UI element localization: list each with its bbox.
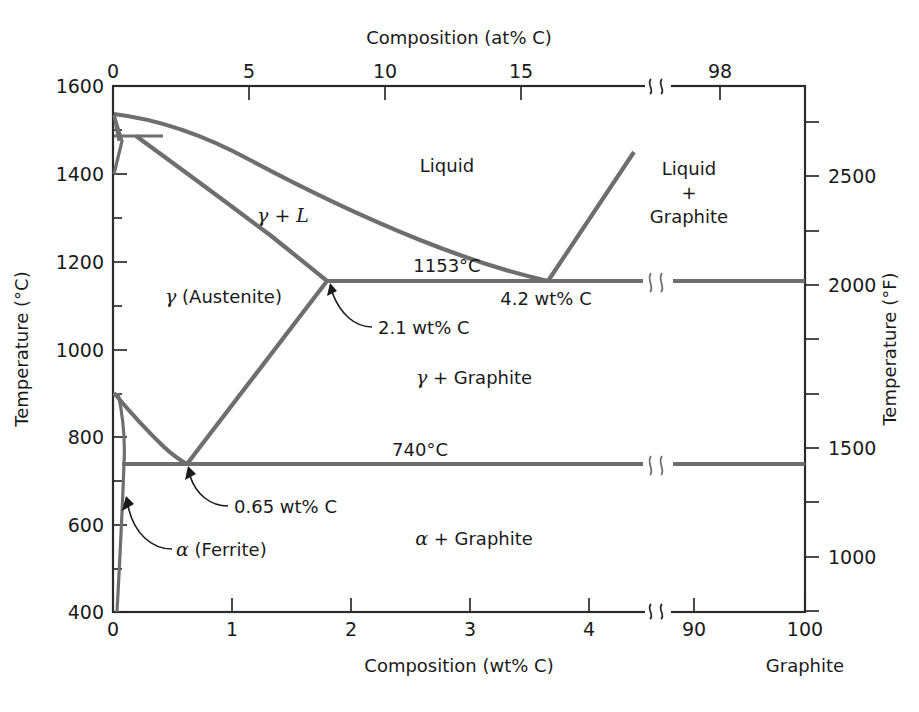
left-tick-label-1000: 1000	[56, 339, 104, 361]
liquid-graphite-line3: Graphite	[650, 206, 728, 227]
phase-diagram-figure: 0 5 10 15 98 Composition (at% C) 0 1 2	[0, 0, 919, 712]
left-axis-title: Temperature (°C)	[11, 271, 32, 427]
top-axis-tick-labels: 0 5 10 15 98	[107, 60, 732, 82]
annotation-eutectoid-temp: 740°C	[392, 439, 448, 460]
top-axis-ticks	[113, 86, 720, 100]
annotation-eutectic-comp: 4.2 wt% C	[500, 288, 592, 309]
bottom-axis-ticks	[113, 598, 805, 612]
left-tick-label-800: 800	[68, 426, 104, 448]
left-tick-label-1200: 1200	[56, 251, 104, 273]
bottom-tick-label-6: 100	[787, 618, 823, 640]
svg-text:γ + L: γ + L	[257, 204, 309, 226]
top-tick-label-1: 5	[243, 60, 255, 82]
region-label-gamma-plus-l-rest: + L	[268, 204, 309, 226]
top-axis-break-icon	[645, 79, 671, 94]
left-tick-label-1600: 1600	[56, 75, 104, 97]
region-label-gamma-austenite: γ (Austenite)	[165, 285, 282, 307]
acm-solvus-line	[187, 281, 327, 464]
gamma-glyph-3: γ	[416, 366, 428, 388]
annotation-0p65-leader	[185, 466, 228, 506]
top-axis-title: Composition (at% C)	[366, 27, 552, 48]
annotation-alpha-ferrite: α (Ferrite)	[176, 538, 267, 560]
graphite-corner-label: Graphite	[766, 655, 844, 676]
svg-text:γ (Austenite): γ (Austenite)	[165, 285, 282, 307]
left-tick-label-1400: 1400	[56, 163, 104, 185]
bottom-axis-tick-labels: 0 1 2 3 4 90 100	[107, 618, 823, 640]
right-axis-title: Temperature (°F)	[879, 272, 900, 426]
right-tick-label-1500: 1500	[828, 437, 876, 459]
right-tick-label-2500: 2500	[828, 165, 876, 187]
liquid-graphite-line2: +	[681, 182, 696, 203]
left-tick-label-400: 400	[68, 601, 104, 623]
top-tick-label-2: 10	[373, 60, 397, 82]
left-axis-tick-labels: 1600 1400 1200 1000 800 600 400	[56, 75, 104, 623]
annotation-eutectic-temp: 1153°C	[413, 255, 480, 276]
bottom-tick-label-2: 2	[345, 618, 357, 640]
annotation-2p1-leader	[327, 283, 372, 327]
svg-text:α (Ferrite): α (Ferrite)	[176, 538, 267, 560]
liquid-graphite-line1: Liquid	[662, 158, 716, 179]
bottom-tick-label-0: 0	[107, 618, 119, 640]
bottom-tick-label-4: 4	[583, 618, 595, 640]
region-label-gamma-plus-graphite: γ + Graphite	[416, 366, 532, 388]
region-label-alpha-graphite-rest: + Graphite	[428, 528, 533, 549]
svg-text:α + Graphite: α + Graphite	[415, 527, 533, 549]
annotation-ferrite-leader	[122, 496, 172, 549]
bottom-axis-title: Composition (wt% C)	[364, 655, 553, 676]
eutectic-isotherm-break-icon	[643, 272, 673, 292]
region-label-alpha-plus-graphite: α + Graphite	[415, 527, 533, 549]
left-tick-label-600: 600	[68, 514, 104, 536]
bottom-tick-label-1: 1	[226, 618, 238, 640]
region-label-austenite-rest: (Austenite)	[176, 286, 282, 307]
region-label-gamma-plus-l: γ + L	[257, 204, 309, 226]
alpha-glyph-2: α	[176, 538, 189, 560]
right-axis-tick-labels: 2500 2000 1500 1000	[828, 165, 876, 568]
alpha-glyph-1: α	[415, 527, 428, 549]
liquidus-line	[114, 114, 548, 281]
bottom-tick-label-5: 90	[682, 618, 706, 640]
annotation-eutectoid-comp: 0.65 wt% C	[234, 496, 337, 517]
top-tick-label-3: 15	[509, 60, 533, 82]
annotation-austenite-max-comp: 2.1 wt% C	[378, 317, 470, 338]
gamma-glyph-2: γ	[165, 285, 177, 307]
top-tick-label-0: 0	[107, 60, 119, 82]
right-axis-ticks	[805, 122, 819, 611]
svg-text:γ + Graphite: γ + Graphite	[416, 366, 532, 388]
annotation-ferrite-rest: (Ferrite)	[189, 539, 267, 560]
bottom-axis-break-icon	[645, 604, 671, 619]
graphite-liquidus-line	[548, 152, 634, 281]
region-label-liquid: Liquid	[420, 155, 474, 176]
eutectoid-isotherm-break-icon	[643, 455, 673, 475]
bottom-tick-label-3: 3	[464, 618, 476, 640]
right-tick-label-1000: 1000	[828, 546, 876, 568]
alpha-solvus-line	[117, 393, 124, 612]
right-tick-label-2000: 2000	[828, 274, 876, 296]
gamma-glyph-1: γ	[257, 204, 269, 226]
top-tick-label-4: 98	[708, 60, 732, 82]
region-label-gamma-graphite-rest: + Graphite	[427, 367, 532, 388]
phase-diagram-svg: 0 5 10 15 98 Composition (at% C) 0 1 2	[0, 0, 919, 712]
region-label-liquid-plus-graphite: Liquid + Graphite	[650, 158, 728, 227]
